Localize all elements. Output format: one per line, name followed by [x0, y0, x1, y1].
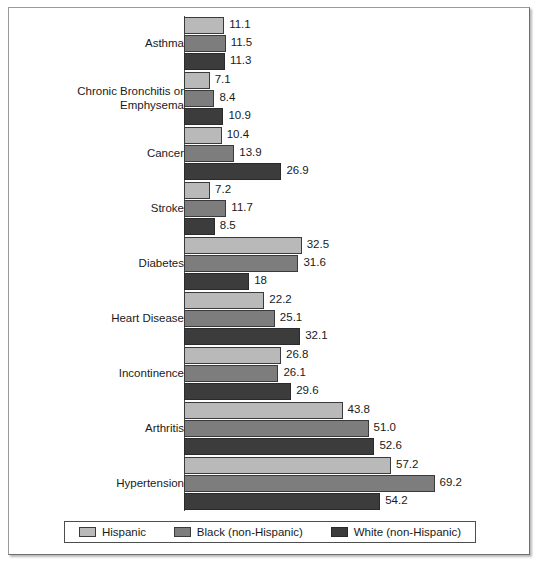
- bar-value-label: 11.3: [230, 54, 252, 66]
- bar-value-label: 8.4: [219, 91, 235, 103]
- bar-value-label: 52.6: [379, 439, 401, 451]
- bar[interactable]: [184, 273, 249, 290]
- legend-swatch-hispanic: [79, 527, 96, 537]
- category-label: Stroke: [24, 202, 184, 216]
- category-label: Asthma: [24, 37, 184, 51]
- bar[interactable]: [184, 292, 264, 309]
- bar-value-label: 57.2: [396, 458, 418, 470]
- bar-value-label: 10.4: [227, 128, 249, 140]
- category-group: Cancer10.413.926.9: [18, 127, 522, 180]
- bar[interactable]: [184, 383, 291, 400]
- category-group: Incontinence26.826.129.6: [18, 347, 522, 400]
- bar-value-label: 13.9: [239, 146, 261, 158]
- category-group: Asthma11.111.511.3: [18, 17, 522, 70]
- legend-swatch-black-non-hispanic: [174, 527, 191, 537]
- bar[interactable]: [184, 182, 210, 199]
- bar-group: 26.826.129.6: [184, 347, 522, 401]
- category-group: Diabetes32.531.618: [18, 237, 522, 290]
- bar-group: 43.851.052.6: [184, 402, 522, 456]
- bar-row: 52.6: [184, 438, 522, 455]
- bar-row: 57.2: [184, 457, 522, 474]
- bar[interactable]: [184, 347, 281, 364]
- legend-item[interactable]: Hispanic: [79, 526, 146, 538]
- bar[interactable]: [184, 438, 374, 455]
- bar[interactable]: [184, 145, 234, 162]
- bar-row: 54.2: [184, 493, 522, 510]
- plot-area: Asthma11.111.511.3Chronic Bronchitis or …: [18, 16, 522, 511]
- bar[interactable]: [184, 310, 275, 327]
- legend-label: White (non-Hispanic): [354, 526, 461, 538]
- bar-row: 31.6: [184, 255, 522, 272]
- bar-group: 11.111.511.3: [184, 17, 522, 71]
- bar-value-label: 31.6: [303, 256, 325, 268]
- bar[interactable]: [184, 420, 369, 437]
- bar-group: 32.531.618: [184, 237, 522, 291]
- bar[interactable]: [184, 163, 281, 180]
- bar[interactable]: [184, 475, 435, 492]
- bar-value-label: 7.1: [215, 73, 231, 85]
- bar-group: 7.18.410.9: [184, 72, 522, 126]
- bar-value-label: 7.2: [215, 183, 231, 195]
- category-group: Arthritis43.851.052.6: [18, 402, 522, 455]
- bar-value-label: 54.2: [385, 494, 407, 506]
- bar-row: 11.3: [184, 53, 522, 70]
- bar-row: 26.1: [184, 365, 522, 382]
- bar-value-label: 26.9: [286, 164, 308, 176]
- bar-value-label: 11.7: [231, 201, 253, 213]
- figure-frame: Asthma11.111.511.3Chronic Bronchitis or …: [8, 7, 530, 555]
- bar-row: 26.8: [184, 347, 522, 364]
- bar[interactable]: [184, 108, 223, 125]
- bar-row: 51.0: [184, 420, 522, 437]
- bar[interactable]: [184, 90, 214, 107]
- bar[interactable]: [184, 457, 391, 474]
- legend-label: Black (non-Hispanic): [197, 526, 303, 538]
- bar[interactable]: [184, 35, 226, 52]
- legend-item[interactable]: Black (non-Hispanic): [174, 526, 303, 538]
- bar-row: 13.9: [184, 145, 522, 162]
- bar-value-label: 51.0: [374, 421, 396, 433]
- bar-value-label: 22.2: [269, 293, 291, 305]
- category-group: Hypertension57.269.254.2: [18, 457, 522, 510]
- bar-value-label: 26.8: [286, 348, 308, 360]
- bar[interactable]: [184, 127, 222, 144]
- legend-item[interactable]: White (non-Hispanic): [331, 526, 461, 538]
- bar-row: 32.1: [184, 328, 522, 345]
- bar[interactable]: [184, 328, 300, 345]
- bar[interactable]: [184, 402, 343, 419]
- bar[interactable]: [184, 237, 302, 254]
- chart-figure: Asthma11.111.511.3Chronic Bronchitis or …: [0, 0, 540, 565]
- bar-row: 26.9: [184, 163, 522, 180]
- bar[interactable]: [184, 17, 224, 34]
- bar[interactable]: [184, 53, 225, 70]
- bar-row: 11.5: [184, 35, 522, 52]
- bar-value-label: 18: [254, 274, 267, 286]
- bar[interactable]: [184, 365, 278, 382]
- bar[interactable]: [184, 72, 210, 89]
- bar-value-label: 32.1: [305, 329, 327, 341]
- bar-group: 7.211.78.5: [184, 182, 522, 236]
- bar-row: 11.1: [184, 17, 522, 34]
- bar-value-label: 11.1: [229, 18, 251, 30]
- bar-row: 18: [184, 273, 522, 290]
- bar[interactable]: [184, 200, 226, 217]
- legend-label: Hispanic: [102, 526, 146, 538]
- category-label: Arthritis: [24, 422, 184, 436]
- bar-value-label: 11.5: [231, 36, 253, 48]
- bar-row: 69.2: [184, 475, 522, 492]
- bar-row: 8.5: [184, 218, 522, 235]
- bar-row: 29.6: [184, 383, 522, 400]
- category-group: Chronic Bronchitis or Emphysema7.18.410.…: [18, 72, 522, 125]
- bar-row: 32.5: [184, 237, 522, 254]
- bar[interactable]: [184, 218, 215, 235]
- category-label: Cancer: [24, 147, 184, 161]
- bar-value-label: 29.6: [296, 384, 318, 396]
- bar-value-label: 10.9: [228, 109, 250, 121]
- bar-value-label: 43.8: [348, 403, 370, 415]
- category-label: Diabetes: [24, 257, 184, 271]
- bar-value-label: 32.5: [307, 238, 329, 250]
- bar-row: 43.8: [184, 402, 522, 419]
- bar[interactable]: [184, 493, 380, 510]
- bar[interactable]: [184, 255, 298, 272]
- bar-group: 57.269.254.2: [184, 457, 522, 511]
- legend-swatch-white-non-hispanic: [331, 527, 348, 537]
